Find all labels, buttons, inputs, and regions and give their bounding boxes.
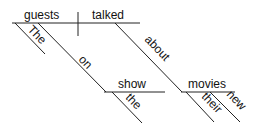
object-2-word: movies: [188, 77, 226, 91]
object-1-modifier-word: the: [123, 90, 145, 112]
subject-word: guests: [24, 8, 59, 22]
subject-modifier-word: The: [25, 22, 50, 47]
preposition-2-word: about: [142, 32, 173, 64]
preposition-1-word: on: [76, 52, 95, 71]
verb-word: talked: [92, 8, 124, 22]
object-1-word: show: [118, 77, 146, 91]
sentence-diagram: guests talked The on show the about movi…: [0, 0, 258, 133]
preposition-1-line: [38, 23, 106, 92]
